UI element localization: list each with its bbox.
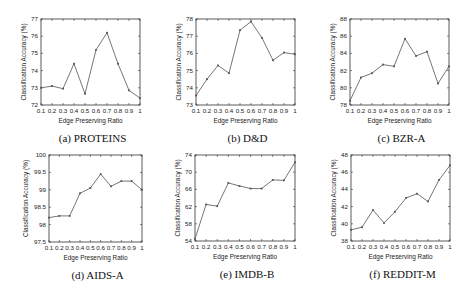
y-tick-label: 86 bbox=[340, 32, 347, 39]
data-point-marker bbox=[394, 211, 396, 213]
data-point-marker bbox=[294, 53, 296, 55]
x-tick-label: 0.3 bbox=[214, 107, 223, 114]
x-tick-label: 0.3 bbox=[368, 107, 377, 114]
data-point-marker bbox=[283, 179, 285, 181]
data-point-marker bbox=[283, 52, 285, 54]
data-point-marker bbox=[100, 173, 102, 175]
data-point-marker bbox=[51, 85, 53, 87]
data-point-marker bbox=[62, 88, 64, 90]
x-tick-label: 0.4 bbox=[70, 107, 79, 114]
y-tick-label: 76 bbox=[186, 49, 193, 56]
x-tick-label: 0.2 bbox=[358, 243, 367, 250]
y-tick-label: 46 bbox=[341, 168, 348, 175]
x-tick-label: 0.1 bbox=[192, 107, 201, 114]
data-point-marker bbox=[217, 65, 219, 67]
data-point-marker bbox=[239, 29, 241, 31]
x-tick-label: 0.7 bbox=[107, 244, 116, 251]
data-point-marker bbox=[141, 189, 143, 191]
data-point-marker bbox=[239, 185, 241, 187]
y-tick-label: 48 bbox=[341, 151, 348, 158]
x-tick-label: 0.9 bbox=[280, 107, 289, 114]
y-axis-title: Classification Accuracy (%) bbox=[175, 23, 183, 100]
plot-frame bbox=[351, 155, 450, 241]
data-point-marker bbox=[250, 21, 252, 23]
data-point-marker bbox=[438, 179, 440, 181]
data-point-marker bbox=[427, 201, 429, 203]
x-tick-label: 0.1 bbox=[346, 107, 355, 114]
x-tick-label: 0.5 bbox=[236, 107, 245, 114]
y-tick-label: 80 bbox=[340, 84, 347, 91]
x-tick-label: 0.3 bbox=[59, 107, 68, 114]
data-series-line bbox=[195, 162, 295, 239]
y-tick-label: 74 bbox=[186, 84, 193, 91]
y-tick-label: 73 bbox=[31, 84, 38, 91]
x-tick-label: 0.4 bbox=[76, 244, 85, 251]
x-tick-label: 0.7 bbox=[103, 107, 112, 114]
data-point-marker bbox=[58, 215, 60, 217]
x-tick-label: 0.3 bbox=[213, 243, 222, 250]
x-tick-label: 0.6 bbox=[246, 243, 255, 250]
x-tick-label: 0.6 bbox=[96, 244, 105, 251]
data-series-line bbox=[350, 39, 449, 101]
y-tick-label: 77 bbox=[31, 15, 38, 22]
x-tick-label: 0.1 bbox=[347, 243, 356, 250]
data-point-marker bbox=[117, 63, 119, 65]
x-tick-label: 0.7 bbox=[258, 107, 267, 114]
x-axis-title: Edge Preserving Ratio bbox=[59, 117, 123, 125]
data-point-marker bbox=[294, 161, 296, 163]
data-point-marker bbox=[216, 205, 218, 207]
data-point-marker bbox=[131, 180, 133, 182]
x-tick-label: 0.1 bbox=[37, 107, 46, 114]
subfigure-caption: (d) AIDS-A bbox=[71, 269, 123, 282]
data-point-marker bbox=[261, 188, 263, 190]
y-tick-label: 98.5 bbox=[34, 203, 47, 210]
plot-frame bbox=[195, 155, 295, 241]
y-tick-label: 99.5 bbox=[34, 168, 47, 175]
y-tick-label: 75 bbox=[31, 49, 38, 56]
chart-panel-bzr-a: 7880828486880.10.20.30.40.50.60.70.80.91… bbox=[329, 15, 451, 145]
data-point-marker bbox=[415, 55, 417, 57]
x-tick-label: 0.3 bbox=[369, 243, 378, 250]
data-point-marker bbox=[350, 229, 352, 231]
y-tick-label: 44 bbox=[341, 185, 348, 192]
x-tick-label: 0.7 bbox=[412, 107, 421, 114]
data-point-marker bbox=[393, 65, 395, 67]
data-point-marker bbox=[195, 95, 197, 97]
data-point-marker bbox=[404, 38, 406, 40]
y-tick-label: 76 bbox=[31, 32, 38, 39]
plot-frame bbox=[41, 19, 140, 105]
data-point-marker bbox=[89, 187, 91, 189]
data-series-line bbox=[196, 22, 295, 96]
data-point-marker bbox=[250, 188, 252, 190]
figure-grid: 7273747576770.10.20.30.40.50.60.70.80.91… bbox=[0, 0, 468, 300]
data-point-marker bbox=[360, 77, 362, 79]
x-tick-label: 0.8 bbox=[424, 243, 433, 250]
x-tick-label: 0.8 bbox=[269, 107, 278, 114]
x-tick-label: 1 bbox=[448, 243, 452, 250]
subfigure-caption: (c) BZR-A bbox=[378, 132, 426, 145]
subfigure-caption: (f) REDDIT-M bbox=[369, 268, 436, 281]
subfigure-caption: (a) PROTEINS bbox=[59, 132, 127, 145]
data-point-marker bbox=[95, 49, 97, 51]
x-tick-label: 0.7 bbox=[413, 243, 422, 250]
plot-frame bbox=[49, 155, 142, 242]
y-tick-label: 98 bbox=[39, 221, 46, 228]
data-point-marker bbox=[382, 64, 384, 66]
y-tick-label: 88 bbox=[340, 15, 347, 22]
data-point-marker bbox=[205, 204, 207, 206]
data-point-marker bbox=[73, 63, 75, 65]
y-axis-title: Classification Accuracy (%) bbox=[174, 159, 182, 236]
y-axis-title: Classification Accuracy (%) bbox=[22, 160, 30, 237]
data-point-marker bbox=[40, 87, 42, 89]
data-point-marker bbox=[106, 32, 108, 34]
data-point-marker bbox=[206, 78, 208, 80]
y-tick-label: 75 bbox=[186, 67, 193, 74]
data-point-marker bbox=[416, 193, 418, 195]
x-tick-label: 0.2 bbox=[203, 107, 212, 114]
x-tick-label: 0.2 bbox=[48, 107, 57, 114]
x-tick-label: 0.6 bbox=[92, 107, 101, 114]
data-point-marker bbox=[272, 179, 274, 181]
y-axis-title: Classification Accuracy (%) bbox=[20, 23, 28, 100]
x-tick-label: 0.5 bbox=[235, 243, 244, 250]
x-tick-label: 0.8 bbox=[268, 243, 277, 250]
